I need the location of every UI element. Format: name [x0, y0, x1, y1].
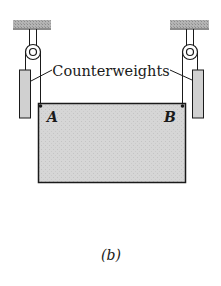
point-b-label: B [163, 109, 176, 125]
diagram-canvas: Counterweights A B (b) [0, 0, 221, 286]
attachment-point-b [181, 104, 185, 108]
leader-line-left [31, 70, 52, 81]
left-ceiling [13, 20, 51, 28]
right-counterweight [193, 70, 204, 118]
attachment-point-a [39, 104, 43, 108]
leader-line-right [170, 70, 192, 80]
point-a-label: A [45, 109, 58, 125]
left-counterweight [20, 70, 31, 118]
right-ceiling [170, 20, 209, 28]
figure-caption: (b) [101, 247, 121, 263]
counterweights-label: Counterweights [52, 63, 169, 79]
